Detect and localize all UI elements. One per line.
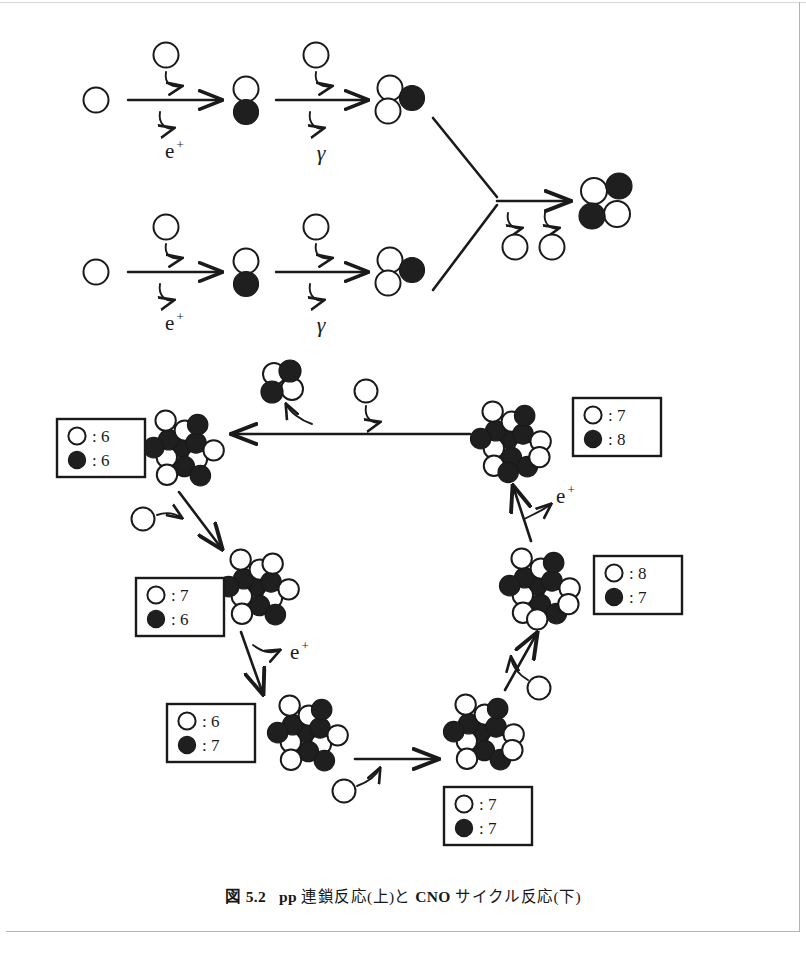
count-box-neutron-symbol xyxy=(455,819,472,836)
pp-positron-label-1: e xyxy=(165,139,174,163)
count-box-proton-value-c13: : 6 xyxy=(202,712,219,731)
neutron-circle xyxy=(311,699,331,719)
count-box-proton-symbol xyxy=(68,427,85,444)
neutron-circle xyxy=(190,465,210,485)
neutron-circle xyxy=(314,750,334,770)
caption-cycle-text: サイクル反応(下) xyxy=(455,888,581,905)
proton-circle xyxy=(558,594,578,614)
count-box-neutron-value-n14: : 7 xyxy=(479,819,497,838)
count-box-neutron-value-c12: : 6 xyxy=(92,451,109,470)
pp-released-proton-2 xyxy=(540,235,565,260)
count-box-proton-symbol xyxy=(147,586,164,603)
pp-proton-capture-arrow xyxy=(166,244,182,258)
alpha-neutron-a xyxy=(261,381,283,403)
pp-positron-label-2: e xyxy=(165,311,174,335)
cno-proton-capture-arrow-c12 xyxy=(157,513,182,518)
cno-proton-capture-arrow-n15 xyxy=(366,406,380,422)
caption-pp-label: pp xyxy=(279,888,297,905)
cno-positron-label-n13: e xyxy=(290,640,299,664)
neutron-circle xyxy=(267,722,287,742)
count-box-neutron-value-n13: : 6 xyxy=(171,610,188,629)
he3-proton-a xyxy=(378,248,403,273)
cno-arrow-n13-to-c13 xyxy=(241,632,263,694)
neutron-circle xyxy=(265,604,285,624)
proton-circle xyxy=(529,447,549,467)
neutron-circle xyxy=(499,575,519,595)
pp-gamma-emit-arrow xyxy=(310,284,324,300)
pp-released-proton-1 xyxy=(503,235,528,260)
alpha-neutron-b xyxy=(279,360,301,382)
pp-merge-line-upper xyxy=(433,118,497,197)
pp-gamma-label-2: γ xyxy=(317,312,327,337)
count-box-proton-value-n15: : 7 xyxy=(608,406,626,425)
pp-proton-incoming-2 xyxy=(304,215,329,240)
he4-proton-a xyxy=(581,178,607,204)
pp-proton-incoming-2 xyxy=(304,43,329,68)
count-box-proton-value-c12: : 6 xyxy=(92,427,109,446)
he3-proton-a xyxy=(378,76,403,101)
pp-proton-capture-arrow-2 xyxy=(316,72,332,86)
pp-chain-group: e+γe+γ xyxy=(84,43,633,338)
cno-nucleus-c12 xyxy=(143,410,223,485)
deuteron-proton xyxy=(234,249,259,274)
proton-circle xyxy=(327,725,347,745)
neutron-circle xyxy=(487,698,507,718)
deuteron-neutron xyxy=(234,100,259,125)
cno-proton-input-n15 xyxy=(355,380,378,403)
proton-circle xyxy=(203,440,223,460)
cno-positron-label-o15-superscript: + xyxy=(568,482,575,497)
count-box-neutron-symbol xyxy=(68,451,85,468)
pp-gamma-label-1: γ xyxy=(317,140,327,165)
cno-nucleus-n15 xyxy=(470,401,550,482)
pp-proton-reactant xyxy=(84,88,109,113)
pp-proton-capture-arrow xyxy=(166,72,182,86)
neutron-circle xyxy=(498,462,518,482)
proton-circle xyxy=(527,609,547,629)
proton-circle xyxy=(279,695,299,715)
pp-positron-label-1-superscript: + xyxy=(177,137,184,152)
neutron-circle xyxy=(470,428,490,448)
nuclear-reaction-diagram: e+γe+γ : 6: 6: 7: 6: 6: 7: 7: 7: 8: 7: 7… xyxy=(0,0,806,956)
proton-circle xyxy=(457,749,477,769)
cno-proton-input-c12 xyxy=(132,508,155,531)
pp-released-proton-arrow-2 xyxy=(545,213,559,228)
count-box-neutron-value-n15: : 8 xyxy=(608,430,625,449)
cno-proton-input-n14 xyxy=(528,677,551,700)
neutron-circle xyxy=(514,405,534,425)
proton-circle xyxy=(281,750,301,770)
pp-proton-capture-arrow-2 xyxy=(316,244,332,258)
pp-merge-line-lower xyxy=(433,205,497,290)
cno-arrow-c12-to-n13 xyxy=(179,492,222,549)
count-box-neutron-symbol xyxy=(147,610,164,627)
count-box-neutron-symbol xyxy=(178,736,195,753)
count-box-proton-symbol xyxy=(178,712,195,729)
count-box-proton-symbol xyxy=(455,795,472,812)
pp-positron-emit-arrow xyxy=(160,284,174,300)
cno-positron-label-o15: e xyxy=(556,484,565,508)
he3-proton-b xyxy=(376,99,401,124)
cno-nucleus-n13 xyxy=(218,549,298,624)
pp-proton-reactant xyxy=(84,260,109,285)
proton-circle xyxy=(278,579,298,599)
cno-proton-capture-arrow-c13 xyxy=(357,768,380,786)
proton-circle xyxy=(262,553,282,573)
caption-cno-label: CNO xyxy=(415,888,451,905)
cno-alpha-emit-arrow xyxy=(286,404,312,424)
pp-proton-incoming xyxy=(154,215,179,240)
deuteron-proton xyxy=(234,77,259,102)
he4-neutron-b xyxy=(579,203,605,229)
proton-circle xyxy=(455,694,475,714)
count-box-proton-value-n13: : 7 xyxy=(171,586,189,605)
count-box-neutron-symbol xyxy=(584,430,601,447)
he3-proton-b xyxy=(376,271,401,296)
pp-positron-label-2-superscript: + xyxy=(177,309,184,324)
neutron-circle xyxy=(443,721,463,741)
cno-cycle-group: : 6: 6: 7: 6: 6: 7: 7: 7: 8: 7: 7: 8e+e+ xyxy=(57,360,682,845)
proton-circle xyxy=(482,401,502,421)
pp-released-proton-arrow-1 xyxy=(508,213,522,228)
deuteron-neutron xyxy=(234,272,259,297)
proton-circle xyxy=(155,410,175,430)
count-box-neutron-value-o15: : 7 xyxy=(629,588,647,607)
caption-chain-text: 連鎖反応(上)と xyxy=(301,888,411,905)
count-box-proton-value-o15: : 8 xyxy=(629,564,646,583)
